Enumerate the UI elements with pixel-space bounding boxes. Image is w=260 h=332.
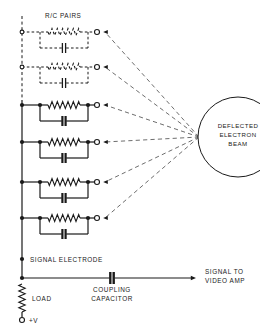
branch-junction-left-6 [38, 216, 42, 220]
beam-label-line1: DEFLECTED [218, 122, 259, 129]
branch-junction-left-5 [38, 180, 42, 184]
signal-electrode-node [20, 257, 24, 261]
branch-junction-left-3 [38, 103, 42, 107]
branch-terminal-3 [95, 103, 100, 108]
branch-terminal-1 [95, 30, 100, 35]
bus-node-1 [20, 30, 24, 34]
bus-node-4 [20, 140, 24, 144]
supply-terminal [20, 318, 25, 323]
bus-node-3 [20, 103, 24, 107]
branch-junction-left-4 [38, 140, 42, 144]
output-label-line1: SIGNAL TO [205, 268, 244, 275]
coupling-capacitor-label-line2: CAPACITOR [91, 295, 133, 302]
branch-junction-right-3 [86, 103, 90, 107]
supply-label: +V [29, 317, 38, 324]
beam-label-line3: BEAM [228, 140, 247, 147]
rc-pair-electron-beam-schematic: R/C PAIRS DEFLECTED ELECTRON BEAM SIGNAL… [0, 0, 260, 332]
branch-junction-right-5 [86, 180, 90, 184]
coupling-capacitor-label-line1: COUPLING [93, 286, 131, 293]
output-bus-node [20, 276, 24, 280]
branch-junction-right-4 [86, 140, 90, 144]
output-label-line2: VIDEO AMP [205, 277, 245, 284]
branch-terminal-2 [95, 65, 100, 70]
bus-node-6 [20, 216, 24, 220]
branch-terminal-5 [95, 180, 100, 185]
load-label: LOAD [32, 295, 52, 302]
branch-terminal-6 [95, 216, 100, 221]
branch-terminal-4 [95, 140, 100, 145]
bus-node-2 [20, 65, 24, 69]
branch-junction-right-6 [86, 216, 90, 220]
signal-electrode-label: SIGNAL ELECTRODE [30, 256, 103, 263]
rc-pairs-label: R/C PAIRS [45, 12, 81, 19]
beam-label-line2: ELECTRON [219, 131, 256, 138]
bus-node-5 [20, 180, 24, 184]
